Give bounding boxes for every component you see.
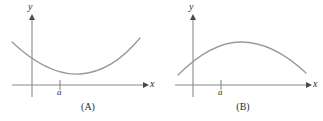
y-axis-arrow-a	[29, 14, 35, 20]
x-tick-label-b: a	[218, 88, 223, 97]
x-axis-label-a: x	[150, 79, 154, 89]
figure-root: y x a (A) y x a (B)	[0, 0, 323, 121]
panel-caption-a: (A)	[63, 102, 113, 112]
x-tick-label-a: a	[57, 88, 62, 97]
panel-b: y x a (B)	[161, 0, 323, 121]
curve-a	[12, 38, 140, 74]
x-axis-arrow-a	[143, 82, 149, 88]
y-axis-label-b: y	[189, 2, 193, 12]
x-axis-b	[175, 82, 312, 88]
panel-caption-b: (B)	[218, 102, 268, 112]
y-axis-arrow-b	[190, 14, 196, 20]
panel-a: y x a (A)	[0, 0, 161, 121]
x-axis-label-b: x	[313, 79, 317, 89]
y-axis-label-a: y	[28, 2, 32, 12]
x-axis-arrow-b	[306, 82, 312, 88]
curve-b	[178, 42, 306, 75]
